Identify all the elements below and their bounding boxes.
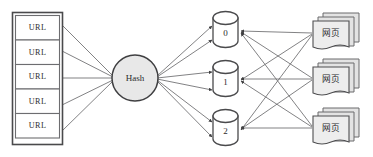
url-cell-2-label: URL <box>29 72 47 81</box>
hash-to-bucket-connectors <box>157 26 212 137</box>
hash-node[interactable]: Hash <box>112 55 158 101</box>
page-stack-1[interactable]: 网页 <box>313 59 359 95</box>
hash-distribution-diagram: URL URL URL URL URL Hash <box>0 0 373 157</box>
connector-hash-to-bucket-2-a <box>157 80 212 122</box>
page-stack-0-label: 网页 <box>322 28 340 38</box>
connector-url-0-to-hash <box>62 25 113 76</box>
hash-node-label: Hash <box>126 73 145 83</box>
page-stack-2[interactable]: 网页 <box>313 108 359 144</box>
url-cell-0-label: URL <box>29 23 47 32</box>
connector-page-0-to-bucket-0 <box>241 31 312 33</box>
connector-hash-to-bucket-2-b <box>157 81 212 137</box>
connector-page-1-to-bucket-0 <box>241 32 312 78</box>
bucket-0[interactable]: 0 <box>213 12 238 48</box>
connector-url-4-to-hash <box>62 81 113 131</box>
bucket-1-label: 1 <box>223 77 228 87</box>
url-queue-box: URL URL URL URL URL <box>13 13 63 145</box>
page-to-bucket-connectors <box>241 31 312 130</box>
bucket-2-label: 2 <box>223 126 228 136</box>
connector-url-1-to-hash <box>62 51 113 77</box>
connector-url-3-to-hash <box>62 80 113 105</box>
bucket-0-label: 0 <box>223 28 228 38</box>
bucket-1-top <box>213 61 238 74</box>
connector-hash-to-bucket-1-a <box>157 72 212 78</box>
url-to-hash-connectors <box>62 25 113 131</box>
connector-hash-to-bucket-1-b <box>157 79 212 90</box>
connector-page-2-to-bucket-1 <box>241 81 312 127</box>
bucket-1[interactable]: 1 <box>213 61 238 97</box>
url-cell-1-label: URL <box>29 48 47 57</box>
connector-hash-to-bucket-0-a <box>157 26 212 76</box>
page-stack-2-label: 网页 <box>322 123 340 133</box>
url-cell-4-label: URL <box>29 121 47 130</box>
bucket-2-top <box>213 110 238 123</box>
bucket-2[interactable]: 2 <box>213 110 238 146</box>
diagram-canvas: URL URL URL URL URL Hash <box>0 0 373 157</box>
page-stack-1-label: 网页 <box>322 74 340 84</box>
page-stack-0[interactable]: 网页 <box>313 13 359 49</box>
connector-page-0-to-bucket-1 <box>241 34 312 80</box>
bucket-0-top <box>213 12 238 25</box>
url-cell-3-label: URL <box>29 97 47 106</box>
connector-page-0-to-bucket-2 <box>241 35 312 130</box>
connector-page-2-to-bucket-0 <box>241 33 312 126</box>
connector-hash-to-bucket-0-b <box>157 40 212 77</box>
